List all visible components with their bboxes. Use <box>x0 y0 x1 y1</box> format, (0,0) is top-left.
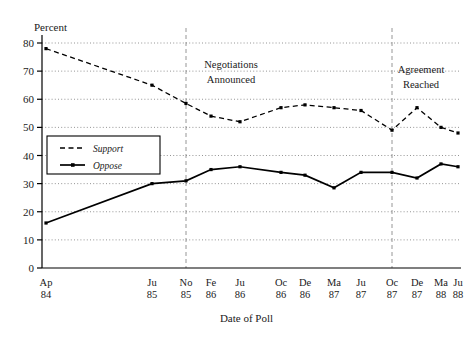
y-tick-label-30: 30 <box>23 178 35 190</box>
data-point-oppose-2 <box>184 179 187 182</box>
x-tick-label-month-3: Fe <box>206 277 217 288</box>
y-tick-label-0: 0 <box>29 262 35 274</box>
x-tick-label-year-5: 86 <box>276 289 287 300</box>
x-tick-label-year-9: 87 <box>387 289 398 300</box>
x-tick-label-month-8: Ju <box>356 277 366 288</box>
data-point-oppose-9 <box>390 171 393 174</box>
data-point-support-12 <box>456 131 459 134</box>
x-tick-label-year-8: 87 <box>356 289 367 300</box>
data-point-support-7 <box>332 106 335 109</box>
data-point-oppose-1 <box>150 182 153 185</box>
data-point-oppose-8 <box>359 171 362 174</box>
legend-label-oppose: Oppose <box>93 161 122 171</box>
x-tick-label-year-3: 86 <box>206 289 217 300</box>
y-tick-label-20: 20 <box>23 206 35 218</box>
x-tick-label-month-10: De <box>411 277 424 288</box>
data-point-support-3 <box>209 115 212 118</box>
x-tick-label-month-12: Ju <box>453 277 463 288</box>
data-point-oppose-12 <box>456 165 459 168</box>
legend-label-support: Support <box>93 144 123 154</box>
x-tick-label-month-4: Ju <box>235 277 245 288</box>
annotation-agreement-reached-line2: Reached <box>403 79 440 90</box>
data-point-oppose-10 <box>415 176 418 179</box>
data-point-support-1 <box>150 84 153 87</box>
legend-marker-oppose <box>71 163 75 167</box>
x-tick-label-month-11: Ma <box>434 277 448 288</box>
x-tick-label-month-2: No <box>180 277 193 288</box>
x-tick-label-year-7: 87 <box>329 289 340 300</box>
poll-line-chart: 01020304050607080PercentAp84Ju85No85Fe86… <box>0 0 472 337</box>
y-tick-label-70: 70 <box>23 65 35 77</box>
data-point-oppose-5 <box>279 171 282 174</box>
x-axis-title: Date of Poll <box>220 312 273 324</box>
data-point-oppose-3 <box>209 168 212 171</box>
x-tick-label-year-1: 85 <box>147 289 158 300</box>
data-point-support-5 <box>279 106 282 109</box>
data-point-support-0 <box>44 47 47 50</box>
x-tick-label-year-4: 86 <box>235 289 246 300</box>
x-tick-label-year-11: 88 <box>436 289 447 300</box>
data-point-oppose-4 <box>238 165 241 168</box>
y-tick-label-50: 50 <box>23 121 35 133</box>
x-tick-label-month-1: Ju <box>147 277 157 288</box>
data-point-support-11 <box>439 126 442 129</box>
data-point-oppose-11 <box>439 162 442 165</box>
y-axis-title: Percent <box>34 21 67 33</box>
x-tick-label-year-10: 87 <box>412 289 423 300</box>
x-tick-label-month-0: Ap <box>40 277 53 288</box>
y-tick-label-60: 60 <box>23 93 35 105</box>
y-tick-label-40: 40 <box>23 150 35 162</box>
data-point-support-4 <box>238 120 241 123</box>
x-tick-label-year-0: 84 <box>41 289 52 300</box>
chart-canvas: 01020304050607080PercentAp84Ju85No85Fe86… <box>0 0 472 337</box>
x-tick-label-year-12: 88 <box>453 289 464 300</box>
annotation-negotiations-announced-line1: Negotiations <box>204 59 258 70</box>
x-tick-label-year-6: 86 <box>300 289 311 300</box>
data-point-support-10 <box>415 106 418 109</box>
data-point-oppose-0 <box>44 221 47 224</box>
x-tick-label-month-6: De <box>299 277 312 288</box>
x-tick-label-year-2: 85 <box>181 289 192 300</box>
data-point-support-2 <box>184 102 187 105</box>
data-point-support-9 <box>390 129 393 132</box>
data-point-oppose-6 <box>303 174 306 177</box>
x-tick-label-month-9: Oc <box>386 277 399 288</box>
y-tick-label-80: 80 <box>23 37 35 49</box>
x-tick-label-month-7: Ma <box>327 277 341 288</box>
annotation-agreement-reached-line1: Agreement <box>398 64 445 75</box>
x-tick-label-month-5: Oc <box>275 277 288 288</box>
data-point-support-6 <box>303 103 306 106</box>
annotation-negotiations-announced-line2: Announced <box>207 74 256 85</box>
data-point-support-8 <box>359 109 362 112</box>
data-point-oppose-7 <box>332 186 335 189</box>
y-tick-label-10: 10 <box>23 234 35 246</box>
